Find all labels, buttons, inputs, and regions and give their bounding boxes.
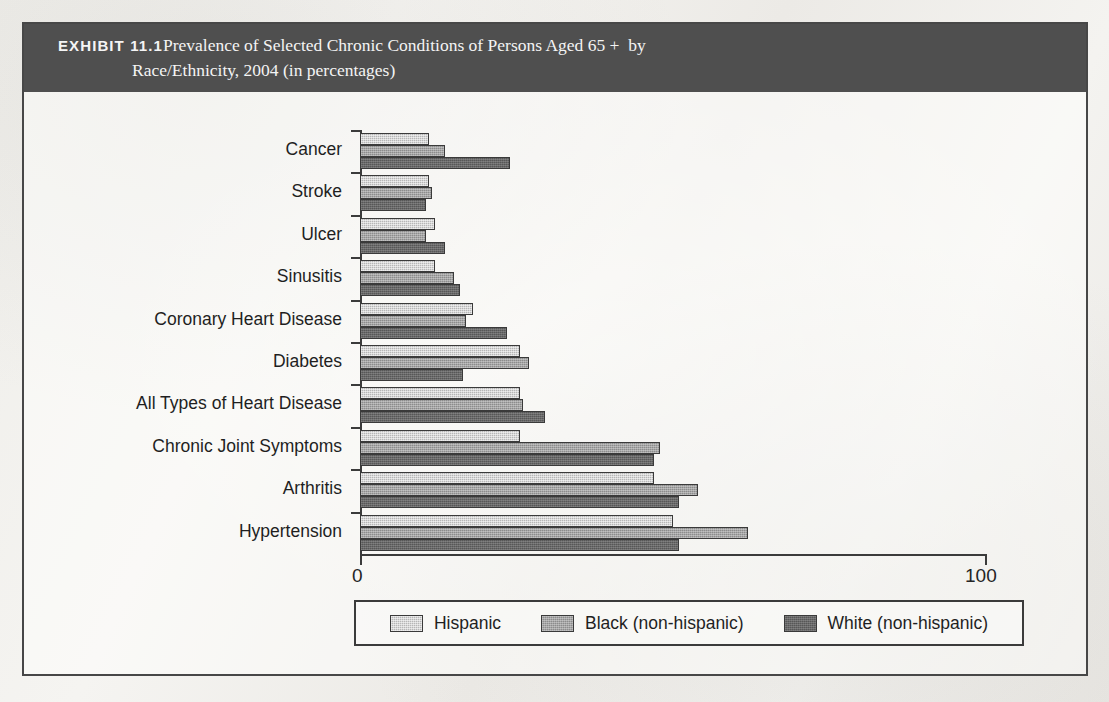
- bar-chart-plot: 0 100 CancerStrokeUlcerSinusitisCoronary…: [24, 92, 1086, 592]
- legend-item[interactable]: White (non-hispanic): [784, 613, 988, 634]
- bar: [360, 230, 426, 242]
- category-tick: [351, 512, 360, 514]
- category-tick: [351, 427, 360, 429]
- category-label: Arthritis: [283, 478, 342, 499]
- bar: [360, 399, 523, 411]
- exhibit-title-line-1: EXHIBIT 11.1Prevalence of Selected Chron…: [58, 33, 1062, 58]
- exhibit-title-text-1: Prevalence of Selected Chronic Condition…: [163, 35, 646, 55]
- bar: [360, 175, 429, 187]
- category-label: Diabetes: [273, 351, 342, 372]
- bar: [360, 133, 429, 145]
- category-tick: [351, 257, 360, 259]
- chart-legend: HispanicBlack (non-hispanic)White (non-h…: [354, 600, 1024, 646]
- bar: [360, 357, 529, 369]
- category-label: Cancer: [286, 139, 342, 160]
- category-label: Coronary Heart Disease: [154, 309, 342, 330]
- bar: [360, 345, 520, 357]
- exhibit-number-label: EXHIBIT 11.1: [58, 37, 163, 54]
- bar: [360, 187, 432, 199]
- legend-swatch-icon: [541, 615, 574, 632]
- bar: [360, 430, 520, 442]
- category-tick: [351, 384, 360, 386]
- bar: [360, 315, 466, 327]
- legend-swatch-icon: [784, 615, 817, 632]
- category-label: Stroke: [291, 181, 342, 202]
- bar: [360, 272, 454, 284]
- bar: [360, 411, 545, 423]
- legend-label: Black (non-hispanic): [585, 613, 744, 634]
- exhibit-header-text: EXHIBIT 11.1Prevalence of Selected Chron…: [58, 33, 1062, 83]
- category-label: Ulcer: [301, 224, 342, 245]
- bar: [360, 472, 654, 484]
- bar: [360, 327, 507, 339]
- category-tick: [351, 469, 360, 471]
- bar: [360, 242, 445, 254]
- bar: [360, 527, 748, 539]
- exhibit-title-line-2: Race/Ethnicity, 2004 (in percentages): [58, 58, 1062, 83]
- bar: [360, 539, 679, 551]
- exhibit-header-bar: EXHIBIT 11.1Prevalence of Selected Chron…: [24, 24, 1086, 92]
- bar: [360, 157, 510, 169]
- bar: [360, 442, 660, 454]
- category-label: Hypertension: [239, 521, 342, 542]
- category-label: Sinusitis: [277, 266, 342, 287]
- category-tick: [351, 215, 360, 217]
- legend-item[interactable]: Hispanic: [390, 613, 501, 634]
- category-label: Chronic Joint Symptoms: [152, 436, 342, 457]
- bar: [360, 387, 520, 399]
- value-axis-line: [360, 554, 987, 556]
- bar: [360, 515, 673, 527]
- bar: [360, 496, 679, 508]
- axis-tick-0: [360, 554, 362, 565]
- bar: [360, 303, 473, 315]
- exhibit-frame: EXHIBIT 11.1Prevalence of Selected Chron…: [22, 22, 1088, 676]
- bar: [360, 484, 698, 496]
- legend-swatch-icon: [390, 615, 423, 632]
- legend-label: White (non-hispanic): [828, 613, 988, 634]
- chart-area: 0 100 CancerStrokeUlcerSinusitisCoronary…: [24, 92, 1086, 674]
- exhibit-page: EXHIBIT 11.1Prevalence of Selected Chron…: [0, 0, 1109, 702]
- category-tick: [351, 342, 360, 344]
- category-tick: [351, 300, 360, 302]
- category-tick: [351, 130, 360, 132]
- bar: [360, 369, 463, 381]
- axis-tick-label-0: 0: [352, 565, 363, 587]
- category-tick: [351, 172, 360, 174]
- category-label: All Types of Heart Disease: [136, 393, 342, 414]
- bar: [360, 199, 426, 211]
- legend-item[interactable]: Black (non-hispanic): [541, 613, 744, 634]
- legend-label: Hispanic: [434, 613, 501, 634]
- bar: [360, 145, 445, 157]
- bar: [360, 260, 435, 272]
- axis-tick-label-100: 100: [965, 565, 997, 587]
- axis-tick-100: [985, 554, 987, 565]
- bar: [360, 218, 435, 230]
- bar: [360, 454, 654, 466]
- bar: [360, 284, 460, 296]
